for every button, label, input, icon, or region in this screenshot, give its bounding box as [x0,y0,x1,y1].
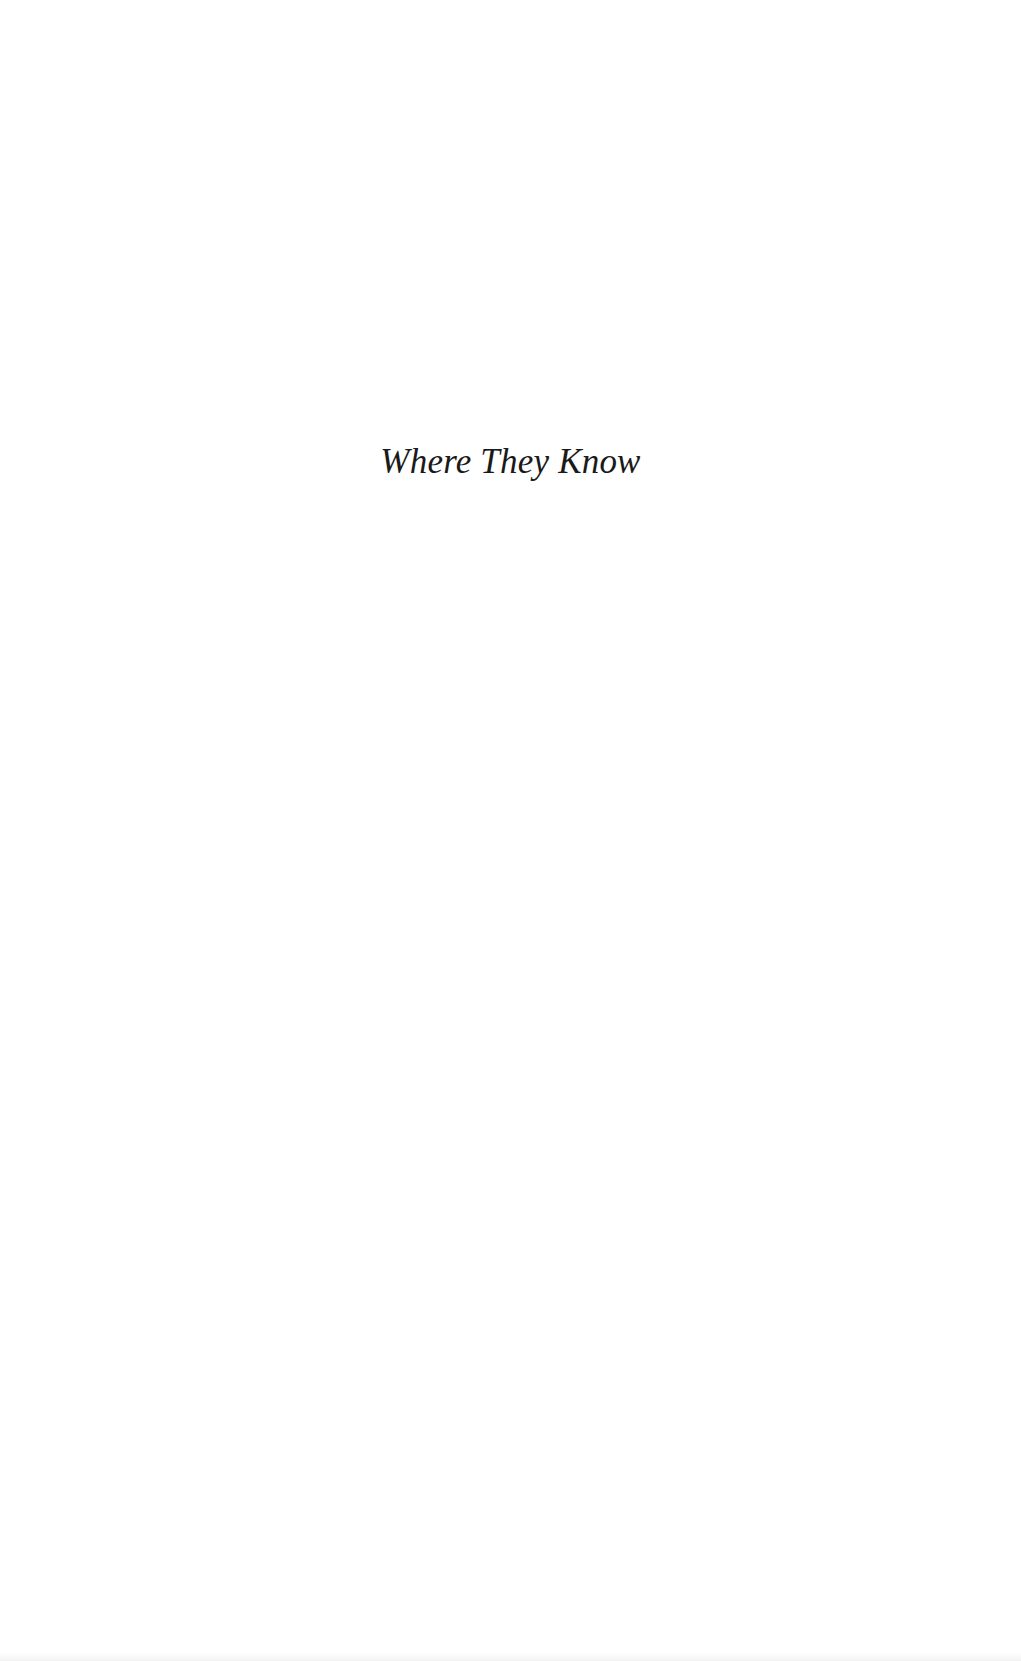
half-title: Where They Know [0,440,1021,484]
scan-edge-artifact [0,1653,1021,1661]
book-page: Where They Know [0,0,1021,1661]
